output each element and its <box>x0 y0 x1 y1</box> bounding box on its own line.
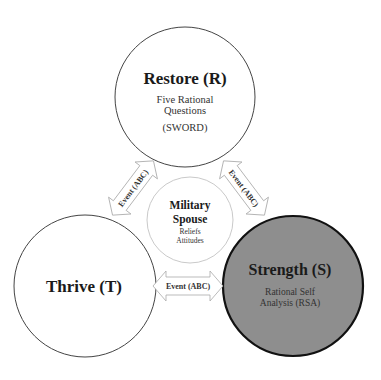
node-strength: Strength (S) Rational Self Analysis (RSA… <box>223 216 363 356</box>
thrive-title: Thrive (T) <box>46 277 122 296</box>
restore-line3: (SWORD) <box>163 122 208 134</box>
rst-model-diagram: Restore (R) Five Rational Questions (SWO… <box>0 0 381 380</box>
restore-title: Restore (R) <box>143 69 226 88</box>
restore-line2: Questions <box>164 105 206 116</box>
strength-circle <box>223 216 363 356</box>
strength-line2: Analysis (RSA) <box>260 298 320 309</box>
node-restore: Restore (R) Five Rational Questions (SWO… <box>115 27 255 167</box>
center-line2: Attitudes <box>176 236 204 245</box>
center-title-line1: Military <box>170 199 211 212</box>
arrow-bottom-label: Event (ABC) <box>166 282 211 291</box>
arrow-thrive-strength: Event (ABC) <box>153 271 223 301</box>
strength-line1: Rational Self <box>265 287 316 297</box>
strength-title: Strength (S) <box>249 261 332 279</box>
restore-line1: Five Rational <box>157 94 214 105</box>
center-title-line2: Spouse <box>173 213 208 226</box>
node-military-spouse: Military Spouse Reliefs Attitudes <box>147 177 233 263</box>
node-thrive: Thrive (T) <box>14 215 156 357</box>
center-line1: Reliefs <box>179 227 200 236</box>
